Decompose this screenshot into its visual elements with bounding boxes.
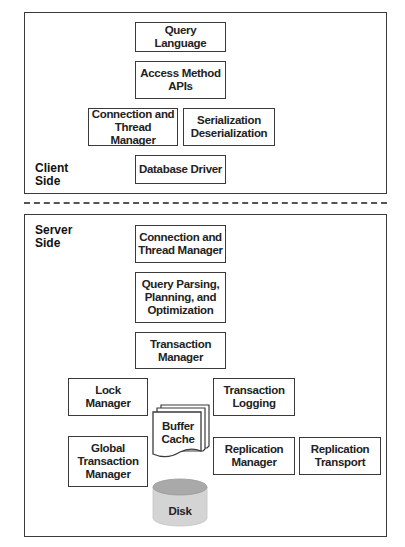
server-query-parsing-box: Query Parsing, Planning, and Optimizatio… [135, 272, 226, 323]
server-transaction-logging-box: Transaction Logging [213, 378, 295, 416]
client-access-method-apis-box: Access Method APIs [135, 61, 226, 99]
client-server-divider [24, 202, 387, 204]
buffer-cache-label: Buffer Cache [153, 420, 203, 446]
client-side-label: Client Side [35, 162, 68, 188]
server-replication-transport-box: Replication Transport [299, 437, 381, 475]
disk-cylinder-icon [151, 478, 209, 528]
server-lock-manager-box: Lock Manager [68, 378, 148, 416]
server-transaction-manager-box: Transaction Manager [135, 332, 226, 369]
client-database-driver-box: Database Driver [135, 155, 226, 184]
client-connection-thread-manager-box: Connection and Thread Manager [88, 108, 178, 146]
server-replication-manager-box: Replication Manager [213, 437, 295, 475]
client-query-language-box: Query Language [135, 22, 226, 52]
server-connection-thread-manager-box: Connection and Thread Manager [135, 225, 226, 263]
disk-label: Disk [151, 505, 209, 518]
client-serialization-box: Serialization Deserialization [183, 108, 275, 146]
server-side-label: Server Side [35, 224, 72, 250]
server-global-transaction-manager-box: Global Transaction Manager [68, 436, 148, 487]
